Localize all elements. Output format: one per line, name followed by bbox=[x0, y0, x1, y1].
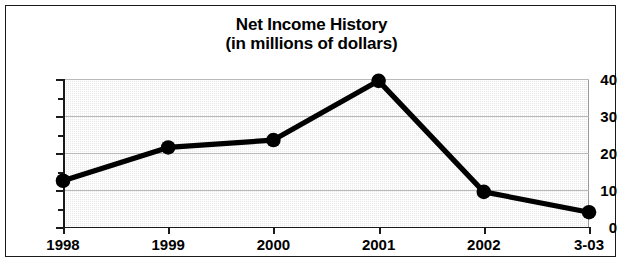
data-point-2002 bbox=[477, 185, 492, 200]
plot-wrapper: 010203040 199819992000200120023-03 bbox=[6, 6, 617, 258]
chart-figure: Net Income History (in millions of dolla… bbox=[0, 0, 631, 272]
data-series-layer bbox=[6, 6, 617, 258]
data-point-3-03 bbox=[582, 205, 597, 220]
data-point-1999 bbox=[161, 140, 176, 155]
data-point-1998 bbox=[56, 173, 71, 188]
series-line-net-income bbox=[63, 81, 589, 212]
chart-frame-border: Net Income History (in millions of dolla… bbox=[5, 5, 616, 257]
data-point-2001 bbox=[371, 74, 386, 89]
data-point-2000 bbox=[266, 133, 281, 148]
